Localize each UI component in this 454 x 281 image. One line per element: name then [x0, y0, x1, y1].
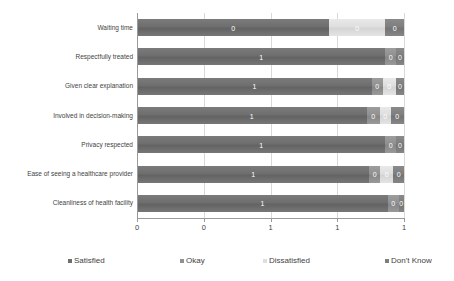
x-tick-mark: [137, 218, 138, 222]
category-label: Respectfully treated: [1, 53, 133, 61]
plot-frame: [137, 13, 404, 218]
legend-swatch-icon: [180, 259, 184, 263]
legend-item[interactable]: Don't Know: [385, 256, 432, 266]
x-tick-mark: [404, 218, 405, 222]
category-label: Waiting time: [1, 24, 133, 32]
x-tick-label: 1: [402, 223, 406, 233]
x-tick-mark: [271, 218, 272, 222]
x-tick-mark: [337, 218, 338, 222]
legend-item[interactable]: Okay: [180, 256, 205, 266]
x-tick-mark: [204, 218, 205, 222]
category-label: Cleanliness of health facility: [1, 199, 133, 207]
legend-swatch-icon: [68, 259, 72, 263]
legend-swatch-icon: [385, 259, 389, 263]
category-label: Ease of seeing a healthcare provider: [1, 170, 133, 178]
x-tick-label: 0: [135, 223, 139, 233]
legend-item[interactable]: Dissatisfied: [263, 256, 310, 266]
legend-label: Satisfied: [74, 256, 105, 266]
category-label: Privacy respected: [1, 141, 133, 149]
chart-legend: SatisfiedOkayDissatisfiedDon't Know: [0, 256, 454, 272]
category-label: Involved in decision-making: [1, 112, 133, 120]
legend-label: Dissatisfied: [269, 256, 310, 266]
category-axis-labels: Waiting timeRespectfully treatedGiven cl…: [0, 13, 133, 218]
x-axis-tick-labels: 00111: [137, 223, 404, 235]
x-tick-label: 1: [268, 223, 272, 233]
legend-swatch-icon: [263, 259, 267, 263]
category-label: Given clear explanation: [1, 82, 133, 90]
legend-item[interactable]: Satisfied: [68, 256, 105, 266]
x-tick-label: 0: [202, 223, 206, 233]
x-tick-label: 1: [335, 223, 339, 233]
stacked-bar-chart: Waiting timeRespectfully treatedGiven cl…: [0, 0, 454, 281]
legend-label: Don't Know: [391, 256, 432, 266]
x-axis-line: [137, 218, 404, 219]
legend-label: Okay: [186, 256, 205, 266]
plot-area: 0000100010001000100010001000: [137, 13, 404, 218]
gridline: [404, 13, 405, 218]
